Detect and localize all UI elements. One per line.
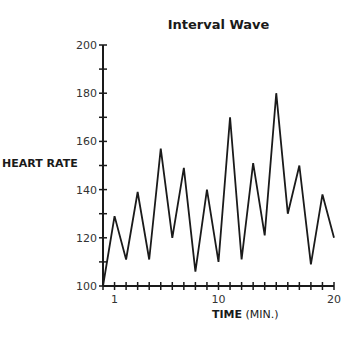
y-tick-label: 100 [76,280,97,293]
x-tick-label: 10 [212,293,226,306]
y-tick-label: 120 [76,232,97,245]
y-tick-label: 180 [76,87,97,100]
y-tick-label: 140 [76,184,97,197]
heart-rate-line [103,93,334,286]
x-tick-label: 20 [327,293,341,306]
y-tick-label: 160 [76,135,97,148]
x-tick-label: 1 [111,293,118,306]
y-tick-label: 200 [76,39,97,52]
line-chart: 10012014016018020011020 [0,0,357,337]
